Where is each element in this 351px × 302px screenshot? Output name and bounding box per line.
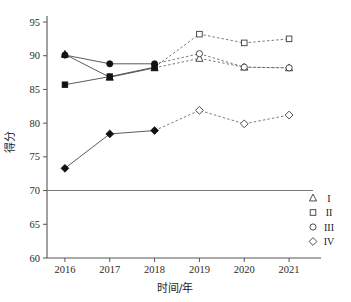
chart-container: 6065707580859095 20162017201820192020202…: [0, 0, 351, 302]
marker-circle: [107, 61, 113, 67]
x-axis-tick-label: 2019: [189, 264, 210, 275]
x-axis-title: 时间/年: [157, 281, 194, 295]
marker-circle: [241, 64, 247, 70]
marker-square: [241, 40, 247, 46]
marker-square: [286, 36, 292, 42]
y-axis-title: 得分: [4, 131, 17, 153]
y-axis-tick-label: 65: [30, 219, 41, 230]
marker-circle: [62, 52, 68, 58]
y-axis-tick-label: 80: [30, 118, 41, 129]
marker-square: [310, 210, 316, 216]
marker-circle: [286, 65, 292, 71]
y-axis-tick-label: 60: [30, 253, 41, 264]
marker-circle: [151, 61, 157, 67]
legend-label-II: II: [326, 207, 333, 218]
line-chart: 6065707580859095 20162017201820192020202…: [0, 0, 351, 302]
x-axis-tick-label: 2020: [234, 264, 255, 275]
chart-background: [0, 0, 351, 302]
x-axis-tick-label: 2016: [54, 264, 75, 275]
x-axis-tick-label: 2021: [279, 264, 300, 275]
legend-label-I: I: [327, 193, 330, 204]
marker-square: [197, 31, 203, 37]
x-axis-tick-label: 2017: [99, 264, 120, 275]
marker-circle: [310, 224, 316, 230]
marker-square: [62, 82, 68, 88]
y-axis-tick-label: 85: [30, 84, 41, 95]
legend-label-III: III: [324, 222, 334, 233]
marker-circle: [196, 51, 202, 57]
legend-label-IV: IV: [324, 236, 335, 247]
y-axis-tick-label: 95: [30, 17, 41, 28]
marker-square: [107, 74, 113, 80]
y-axis-tick-label: 75: [30, 151, 41, 162]
x-axis-tick-label: 2018: [144, 264, 165, 275]
y-axis-tick-label: 70: [30, 185, 41, 196]
y-axis-tick-label: 90: [30, 50, 41, 61]
